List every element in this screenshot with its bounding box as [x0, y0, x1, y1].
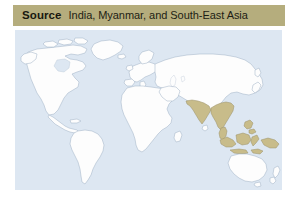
region-arctic-islands-2 — [74, 38, 88, 44]
region-borneo-highlight — [236, 133, 251, 145]
region-java-highlight — [230, 149, 248, 154]
region-arctic-islands-1 — [58, 39, 73, 45]
region-lesser-sunda-highlight — [251, 149, 263, 154]
region-iberia — [124, 79, 135, 86]
region-caribbean — [70, 119, 81, 123]
world-map-source-figure: Source India, Myanmar, and South-East As… — [0, 0, 295, 204]
region-iceland — [118, 54, 126, 59]
source-text: India, Myanmar, and South-East Asia — [69, 10, 248, 21]
region-philippines-highlight — [244, 120, 253, 129]
region-australia — [228, 154, 267, 182]
region-madagascar — [174, 131, 182, 142]
region-sulawesi-highlight — [251, 135, 259, 146]
region-myanmar-sea-highlight — [211, 102, 234, 130]
region-new-guinea-highlight — [261, 138, 279, 148]
region-central-america — [48, 115, 79, 133]
region-scandinavia — [139, 50, 154, 64]
region-new-zealand — [273, 166, 280, 178]
region-south-america — [70, 130, 104, 184]
region-sri-lanka — [202, 125, 208, 131]
source-label: Source — [22, 10, 62, 22]
region-philippines-south-highlight — [249, 129, 256, 134]
region-arctic-islands-3 — [43, 41, 58, 47]
world-map-panel — [15, 30, 282, 190]
region-europe — [129, 62, 158, 82]
region-tasmania — [254, 182, 261, 187]
region-asia — [155, 54, 263, 111]
world-map-svg — [15, 30, 282, 190]
source-bar: Source India, Myanmar, and South-East As… — [13, 5, 285, 26]
